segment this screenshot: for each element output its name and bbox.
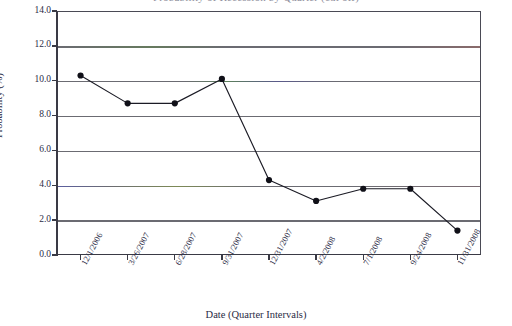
y-tick-label: 8.0 xyxy=(5,109,51,119)
gridline xyxy=(58,46,480,47)
plot-area xyxy=(57,11,481,255)
y-tick-mark xyxy=(52,185,57,186)
y-tick-mark xyxy=(52,219,57,220)
y-tick-label: 4.0 xyxy=(5,179,51,189)
y-tick-label: 2.0 xyxy=(5,214,51,224)
gridline xyxy=(58,186,480,187)
chart-title: Probability of Recession by Quarter (cut… xyxy=(0,0,512,3)
y-tick-mark xyxy=(52,150,57,151)
x-axis-title: Date (Quarter Intervals) xyxy=(0,309,512,320)
y-tick-mark xyxy=(52,254,57,255)
y-tick-mark xyxy=(52,80,57,81)
y-tick-label: 12.0 xyxy=(5,39,51,49)
y-tick-mark xyxy=(52,10,57,11)
y-tick-mark xyxy=(52,115,57,116)
y-tick-label: 14.0 xyxy=(5,5,51,15)
y-tick-label: 0.0 xyxy=(5,249,51,259)
gridline xyxy=(58,116,480,117)
gridline xyxy=(58,151,480,152)
y-axis-title: Probability (%) xyxy=(0,73,4,138)
y-tick-label: 6.0 xyxy=(5,144,51,154)
gridline xyxy=(58,81,480,82)
y-tick-mark xyxy=(52,45,57,46)
chart-figure: Probability of Recession by Quarter (cut… xyxy=(0,0,512,326)
y-tick-label: 10.0 xyxy=(5,74,51,84)
gridline xyxy=(58,220,480,221)
